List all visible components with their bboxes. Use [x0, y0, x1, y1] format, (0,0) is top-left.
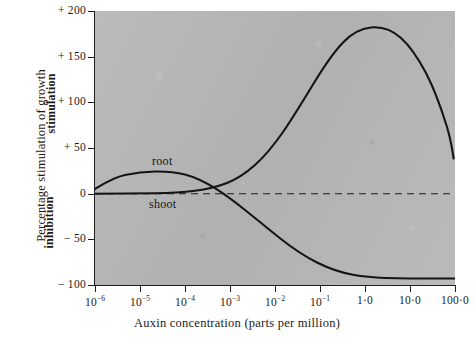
- y-tick-0: [88, 194, 94, 195]
- y-ticklabel-neg100: − 100: [40, 278, 86, 290]
- x-tick-1e-6: [95, 286, 96, 292]
- shoot-curve: [95, 27, 454, 193]
- y-tick-200: [88, 11, 94, 12]
- y-tick-150: [88, 57, 94, 58]
- shoot-curve-label: shoot: [149, 197, 177, 212]
- x-tick-1: [365, 286, 366, 292]
- x-tick-1e-4: [185, 286, 186, 292]
- x-ticklabel-1e-3-text: 10−3: [220, 296, 240, 308]
- y-tick-100: [88, 102, 94, 103]
- x-ticklabel-1e-2-text: 10−2: [265, 296, 285, 308]
- auxin-response-figure: root shoot + 200 + 150 + 100 + 50 0 − 50…: [0, 0, 474, 340]
- y-tick-50: [88, 148, 94, 149]
- x-ticklabel-100-text: 100·0: [441, 294, 469, 306]
- y-axis-spine: [94, 11, 95, 286]
- x-tick-100: [455, 286, 456, 292]
- x-ticklabel-1e-5-text: 10−5: [130, 296, 150, 308]
- x-ticklabel-1e-6-text: 10−6: [85, 296, 105, 308]
- y-tick-neg100: [88, 285, 94, 286]
- y-axis-inhibition-label: inhibition: [42, 173, 57, 273]
- y-tick-neg50: [88, 239, 94, 240]
- x-axis-title: Auxin concentration (parts per million): [0, 316, 474, 331]
- x-tick-1e-1: [320, 286, 321, 292]
- x-ticklabel-1e-4-text: 10−4: [175, 296, 195, 308]
- x-tick-10: [410, 286, 411, 292]
- y-axis-stimulation-label: stimulation: [44, 49, 59, 159]
- x-ticklabel-1e-1-text: 10−1: [310, 296, 330, 308]
- curves-svg: [95, 11, 455, 285]
- plot-area: [95, 11, 455, 285]
- root-curve-label: root: [152, 154, 173, 169]
- x-tick-1e-5: [140, 286, 141, 292]
- x-ticklabel-100: 100·0: [427, 294, 474, 306]
- x-tick-1e-3: [230, 286, 231, 292]
- x-ticklabel-10-text: 10·0: [399, 294, 421, 306]
- x-ticklabel-1-text: 1·0: [357, 294, 373, 306]
- root-curve: [95, 171, 455, 278]
- x-tick-1e-2: [275, 286, 276, 292]
- y-ticklabel-200: + 200: [40, 4, 86, 16]
